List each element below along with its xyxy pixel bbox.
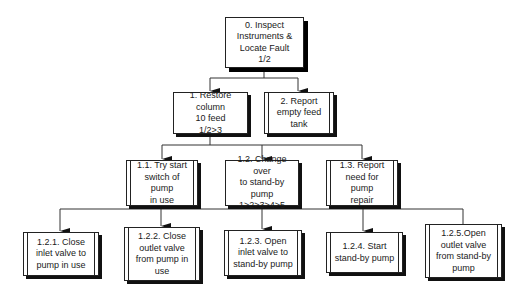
task-label: 1.2.3. Open inlet valve to stand-by pump	[233, 236, 293, 271]
task-label: 1.2.1. Close inlet valve to pump in use	[36, 237, 86, 272]
task-label: 1.2.5.Open outlet valve from stand-by pu…	[436, 228, 491, 274]
task-node-1-2-1: 1.2.1. Close inlet valve to pump in use	[23, 232, 99, 276]
task-node-1-3: 1.3. Report need for pump repair	[326, 160, 398, 206]
task-node-0: 0. Inspect Instruments & Locate Fault 1/…	[225, 17, 304, 68]
task-label: 1.2.4. Start stand-by pump	[335, 241, 395, 264]
task-node-1: 1. Restore column 10 feed 1/2>3	[173, 92, 248, 134]
task-node-1-2: 1.2. Change over to stand-by pump 1>2>3>…	[225, 160, 299, 206]
task-node-1-2-5: 1.2.5.Open outlet valve from stand-by pu…	[425, 224, 502, 278]
task-node-2: 2. Report empty feed tank	[264, 92, 334, 134]
task-label: 1. Restore column 10 feed 1/2>3	[180, 90, 241, 136]
task-label: 2. Report empty feed tank	[277, 96, 322, 131]
task-label: 1.2.2. Close outlet valve from pump in u…	[136, 231, 189, 277]
task-node-1-2-4: 1.2.4. Start stand-by pump	[326, 232, 403, 273]
task-label: 1.3. Report need for pump repair	[333, 160, 391, 206]
task-node-1-2-3: 1.2.3. Open inlet valve to stand-by pump	[224, 230, 302, 276]
task-node-1-2-2: 1.2.2. Close outlet valve from pump in u…	[124, 227, 200, 281]
task-node-1-1: 1.1. Try start switch of pump in use	[126, 160, 198, 206]
task-label: 1.1. Try start switch of pump in use	[133, 160, 191, 206]
task-label: 1.2. Change over to stand-by pump 1>2>3>…	[232, 154, 292, 212]
task-label: 0. Inspect Instruments & Locate Fault 1/…	[237, 20, 293, 66]
